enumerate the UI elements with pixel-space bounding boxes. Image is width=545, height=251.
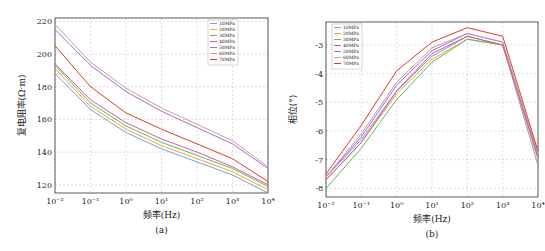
- x-tick-label: 10³: [226, 197, 239, 206]
- legend-entry: 50MPa: [343, 49, 359, 54]
- x-axis-label: 频率(Hz): [413, 213, 451, 224]
- legend-entry: 40MPa: [219, 39, 235, 44]
- y-tick-label: 120: [37, 181, 52, 190]
- chart-panel-b: 10⁻²10⁻¹10⁰10¹10²10³10⁴-8-7-6-5-4-310MPa…: [287, 22, 545, 239]
- x-tick-label: 10⁻²: [317, 201, 335, 210]
- x-tick-label: 10²: [190, 197, 203, 206]
- legend-entry: 30MPa: [343, 37, 359, 42]
- x-tick-label: 10⁻²: [46, 197, 64, 206]
- y-tick-label: -8: [315, 184, 323, 193]
- legend-entry: 10MPa: [219, 21, 235, 26]
- legend-entry: 30MPa: [219, 33, 235, 38]
- x-tick-label: 10⁻¹: [82, 197, 100, 206]
- panel-caption: (a): [155, 225, 167, 235]
- y-axis-label: 相位(°): [287, 95, 298, 125]
- x-tick-label: 10¹: [425, 201, 438, 210]
- legend-entry: 70MPa: [343, 61, 359, 66]
- x-tick-label: 10⁰: [119, 197, 132, 206]
- y-tick-label: 200: [37, 50, 52, 59]
- x-tick-label: 10¹: [155, 197, 168, 206]
- x-tick-label: 10⁰: [390, 201, 403, 210]
- panel-caption: (b): [426, 229, 439, 239]
- y-tick-label: -6: [315, 127, 323, 136]
- legend-entry: 60MPa: [219, 51, 235, 56]
- x-tick-label: 10²: [461, 201, 474, 210]
- y-tick-label: 180: [37, 83, 52, 92]
- x-tick-label: 10⁴: [531, 201, 544, 210]
- legend-entry: 70MPa: [219, 57, 235, 62]
- x-tick-label: 10⁻¹: [353, 201, 371, 210]
- legend-entry: 20MPa: [219, 27, 235, 32]
- x-tick-label: 10⁴: [261, 197, 274, 206]
- y-tick-label: -4: [315, 70, 323, 79]
- legend-entry: 50MPa: [219, 45, 235, 50]
- y-tick-label: -7: [315, 156, 323, 165]
- legend-entry: 10MPa: [343, 25, 359, 30]
- legend-entry: 20MPa: [343, 31, 359, 36]
- y-tick-label: 220: [37, 17, 52, 26]
- y-tick-label: 160: [37, 115, 52, 124]
- legend-entry: 40MPa: [343, 43, 359, 48]
- x-tick-label: 10³: [496, 201, 509, 210]
- y-tick-label: -5: [315, 98, 323, 107]
- y-axis-label: 复电阻率(Ω·m): [16, 75, 27, 137]
- y-tick-label: 140: [37, 148, 52, 157]
- y-tick-label: -3: [315, 41, 323, 50]
- legend: 10MPa20MPa30MPa40MPa50MPa60MPa70MPa: [208, 20, 238, 65]
- legend: 10MPa20MPa30MPa40MPa50MPa60MPa70MPa: [332, 24, 362, 69]
- chart-panel-a: 10⁻²10⁻¹10⁰10¹10²10³10⁴12014016018020022…: [16, 17, 275, 235]
- x-axis-label: 频率(Hz): [143, 209, 181, 220]
- legend-entry: 60MPa: [343, 55, 359, 60]
- figure: 10⁻²10⁻¹10⁰10¹10²10³10⁴12014016018020022…: [0, 0, 545, 251]
